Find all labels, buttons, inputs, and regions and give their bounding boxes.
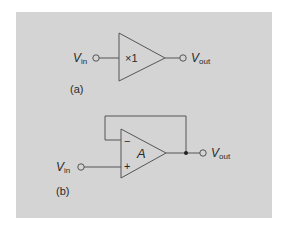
diagram-canvas: Vin ×1 Vout (a) − + A Vin Vout (b) [0, 0, 285, 226]
caption-a: (a) [70, 83, 83, 95]
noninverting-input-sign: + [124, 160, 130, 172]
junction-dot [184, 151, 188, 155]
caption-b: (b) [56, 185, 69, 197]
figure-panel [16, 12, 272, 218]
gain-label: ×1 [125, 52, 138, 64]
amp-gain-label: A [136, 146, 146, 161]
inverting-input-sign: − [124, 135, 130, 147]
